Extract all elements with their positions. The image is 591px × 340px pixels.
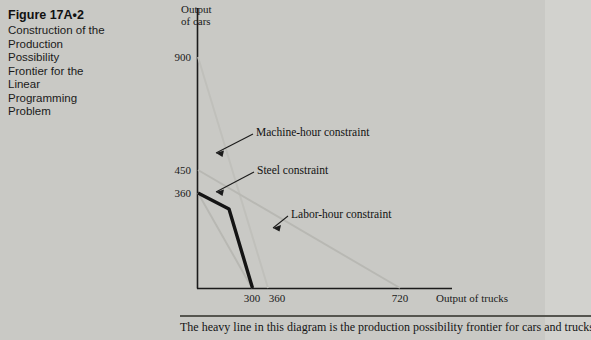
y-tick-label-360: 360	[175, 187, 192, 199]
steel-constraint-label: Steel constraint	[257, 164, 329, 176]
y-axis-title-line-2: of cars	[181, 15, 211, 27]
x-tick-label-300: 300	[244, 292, 261, 304]
steel-leader-line	[216, 172, 254, 192]
labor-hour-constraint-label: Labor-hour constraint	[291, 208, 392, 220]
chart-svg: 900 450 360 300 360 720 Output of cars O…	[0, 0, 545, 306]
labor-hour-constraint-line	[198, 170, 400, 288]
labor-hour-arrowhead-icon	[273, 225, 281, 232]
bottom-caption-rule	[180, 315, 591, 317]
y-tick-label-450: 450	[175, 164, 192, 176]
x-tick-label-360: 360	[269, 292, 286, 304]
bottom-caption: The heavy line in this diagram is the pr…	[180, 320, 591, 335]
page-right-margin	[545, 0, 591, 340]
figure-panel: Figure 17A•2 Construction of the Product…	[0, 0, 545, 340]
x-tick-label-720: 720	[392, 292, 409, 304]
y-axis-title-line-1: Output	[181, 3, 212, 15]
chart-plot-area: 900 450 360 300 360 720 Output of cars O…	[0, 0, 545, 306]
machine-hour-constraint-label: Machine-hour constraint	[256, 126, 370, 138]
x-axis-title: Output of trucks	[436, 292, 508, 304]
y-tick-label-900: 900	[175, 51, 192, 63]
